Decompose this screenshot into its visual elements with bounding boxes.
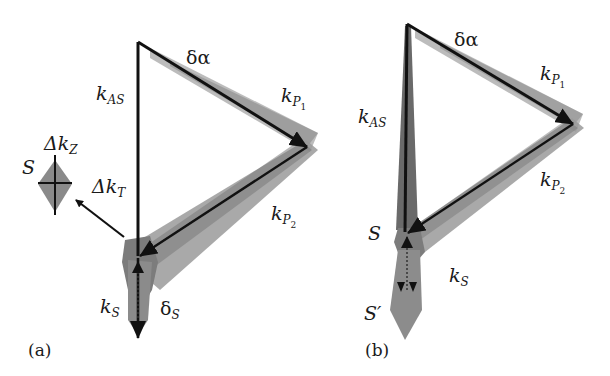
label-delta-alpha-b: δα — [454, 28, 478, 50]
label-delta-alpha-a: δα — [186, 46, 210, 68]
label-delta-k-t: ΔkT — [91, 175, 126, 200]
panel-a: δα kAS kP1 kP2 ΔkT ΔkZ S kS δS (a) — [22, 42, 318, 360]
label-k-s-a: kS — [100, 295, 120, 320]
label-s-a: S — [22, 156, 35, 178]
label-k-as-a: kAS — [96, 82, 124, 107]
label-k-p2-b: kP2 — [540, 168, 565, 196]
panel-label-a: (a) — [28, 340, 51, 360]
label-s-prime-b: S′ — [364, 302, 382, 324]
label-k-as-b: kAS — [358, 105, 386, 130]
phase-matching-diagram: δα kAS kP1 kP2 ΔkT ΔkZ S kS δS (a) — [0, 0, 610, 376]
label-delta-s: δS — [160, 297, 180, 322]
ks-uncertainty-band — [128, 260, 152, 335]
label-k-s-b: kS — [449, 264, 469, 289]
label-k-p1-a: kP1 — [281, 84, 306, 112]
label-s-b: S — [368, 222, 381, 244]
ks-uncertainty-band-b — [390, 250, 422, 340]
label-k-p1-b: kP1 — [540, 62, 565, 90]
panel-b: δα kP1 kAS kP2 S kS S′ (b) — [358, 24, 584, 360]
label-delta-k-z: ΔkZ — [43, 132, 78, 157]
label-k-p2-a: kP2 — [271, 202, 296, 230]
panel-label-b: (b) — [365, 340, 389, 360]
delta-k-t-arrow — [76, 200, 124, 237]
k-as-vector-b — [405, 24, 407, 232]
